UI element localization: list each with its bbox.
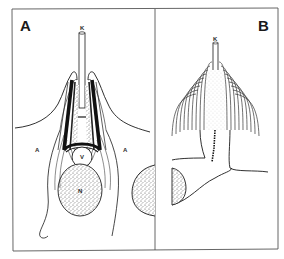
label-a-left: A: [35, 147, 39, 153]
frame: [12, 8, 278, 251]
diagram-svg: [0, 0, 284, 259]
panel-b-drawing: [172, 42, 268, 205]
label-n-oval: N: [78, 188, 82, 194]
panel-a-drawing: [15, 32, 155, 238]
panel-a-letter: A: [20, 18, 31, 33]
label-k-panel-b: K: [213, 36, 217, 42]
label-v-circle: V: [80, 154, 84, 160]
figure: A B K V N A A K: [0, 0, 284, 259]
panel-b-letter: B: [258, 18, 269, 33]
label-k-panel-a: K: [80, 25, 84, 31]
label-a-right: A: [123, 147, 127, 153]
